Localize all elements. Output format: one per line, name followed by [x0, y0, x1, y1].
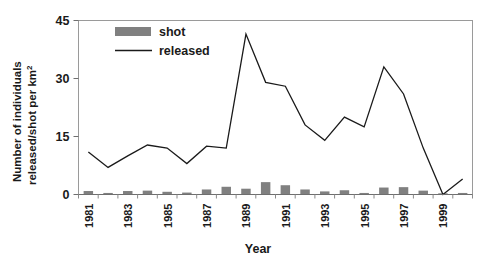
bar-shot-1984: [143, 191, 152, 195]
y-axis-title-line2-text: released/shot per km: [26, 70, 38, 185]
x-tick-label-1987: 1987: [201, 204, 213, 228]
y-tick-label-0: 0: [63, 188, 70, 202]
chart-figure: 0153045 19811983198519871989199119931995…: [0, 0, 481, 261]
x-tick-label-1989: 1989: [240, 204, 252, 228]
legend-swatch-shot: [115, 27, 151, 36]
x-tick-label-1999: 1999: [437, 204, 449, 228]
y-tick-label-15: 15: [56, 130, 70, 144]
bar-shot-1989: [241, 189, 250, 195]
x-axis-title: Year: [245, 242, 272, 256]
bar-shot-1994: [340, 190, 349, 194]
x-tick-label-1993: 1993: [319, 204, 331, 228]
bar-shot-1983: [123, 191, 132, 194]
bar-shot-1996: [379, 188, 388, 195]
x-tick-label-1983: 1983: [122, 204, 134, 228]
bar-shot-1992: [300, 189, 309, 194]
released-shot-chart: 0153045 19811983198519871989199119931995…: [0, 0, 481, 261]
bar-shot-1991: [281, 185, 290, 194]
bar-shot-1987: [202, 189, 211, 194]
legend-label-shot: shot: [159, 25, 186, 39]
y-axis-title-line1: Number of individuals: [11, 61, 23, 182]
bar-shot-1997: [399, 187, 408, 194]
bar-shot-1981: [84, 191, 93, 194]
y-axis-title-superscript: 2: [25, 65, 34, 70]
x-tick-label-1985: 1985: [162, 204, 174, 228]
bar-shot-1988: [222, 187, 231, 195]
bar-shot-1998: [419, 191, 428, 195]
x-tick-label-1995: 1995: [359, 204, 371, 228]
bar-shot-1990: [261, 182, 270, 194]
y-tick-label-45: 45: [56, 14, 70, 28]
y-axis-title-line2: released/shot per km2: [25, 65, 38, 185]
legend-label-released: released: [159, 44, 210, 58]
y-tick-label-30: 30: [56, 72, 70, 86]
x-tick-label-1997: 1997: [398, 204, 410, 228]
x-tick-label-1991: 1991: [280, 204, 292, 228]
x-tick-label-1981: 1981: [83, 204, 95, 228]
